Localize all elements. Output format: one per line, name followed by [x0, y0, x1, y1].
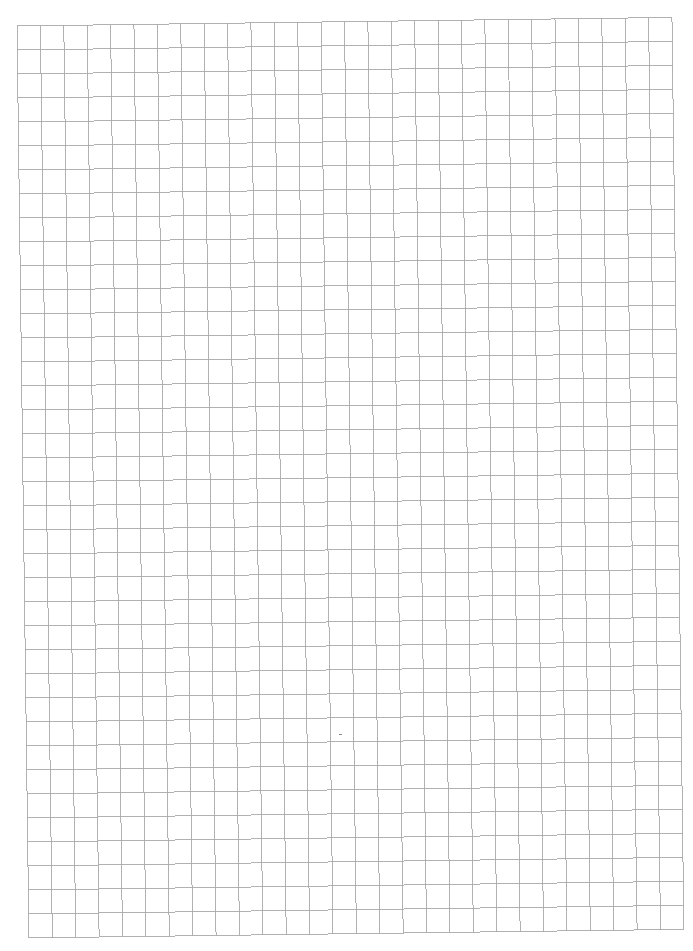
scan-speck [339, 734, 342, 735]
grid [17, 17, 684, 937]
graph-paper-page: Blank grid paper page [0, 0, 693, 951]
grid-lines [17, 17, 684, 937]
